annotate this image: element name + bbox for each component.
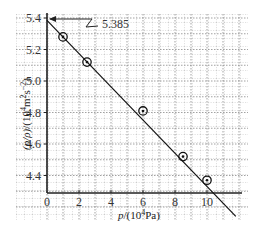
x-label-unit2: Pa) [145, 209, 160, 222]
y-label-exp3: −2 [19, 82, 28, 91]
x-tick-label: 0 [44, 195, 50, 209]
x-tick-label: 6 [140, 195, 146, 209]
x-tick-label: 4 [108, 195, 114, 209]
y-tick-label: 5.4 [26, 11, 41, 25]
x-tick-label: 8 [172, 195, 178, 209]
x-tick-label: 10 [201, 195, 213, 209]
y-label-close: ) [20, 78, 33, 82]
chart: 5.45.25.04.84.64.4 0246810 5.385 (p/ρ)/(… [0, 0, 258, 228]
y-label-unit: /(10 [20, 111, 33, 129]
x-axis-label: p/(104Pa) [117, 208, 160, 222]
y-tick-label: 4.4 [26, 169, 41, 183]
y-label-var: (p/ρ) [20, 129, 33, 150]
grid-background [16, 14, 248, 220]
x-tick-label: 2 [76, 195, 82, 209]
y-tick-label: 5.2 [26, 43, 41, 57]
x-label-unit: /(10 [124, 209, 142, 222]
intercept-label: 5.385 [102, 17, 129, 31]
